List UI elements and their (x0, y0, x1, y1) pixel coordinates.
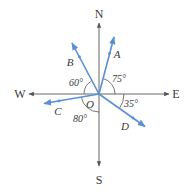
direction-labels: N S W E (14, 7, 179, 187)
angle-label-35: 35° (123, 98, 138, 109)
vector-c-dot (58, 100, 61, 103)
compass-diagram: N S W E A B C D O 60° 75° 35° 80° (0, 0, 192, 194)
label-east: E (172, 87, 179, 101)
label-west: W (14, 87, 26, 101)
vector-b-dot (78, 56, 81, 59)
label-c: C (54, 105, 62, 117)
angle-label-60: 60° (69, 77, 83, 88)
vector-d-dot (132, 117, 135, 120)
label-south: S (96, 173, 103, 187)
label-origin: O (86, 98, 94, 110)
angle-labels: 60° 75° 35° 80° (69, 73, 138, 124)
label-a: A (113, 48, 121, 60)
vector-labels: A B C D O (54, 48, 129, 132)
vector-a-dot (108, 52, 111, 55)
angle-label-80: 80° (73, 113, 87, 124)
label-north: N (95, 7, 104, 21)
vector-a (99, 37, 114, 94)
label-d: D (120, 120, 129, 132)
arc-60 (84, 81, 92, 94)
label-b: B (67, 56, 74, 68)
angle-label-75: 75° (112, 73, 126, 84)
